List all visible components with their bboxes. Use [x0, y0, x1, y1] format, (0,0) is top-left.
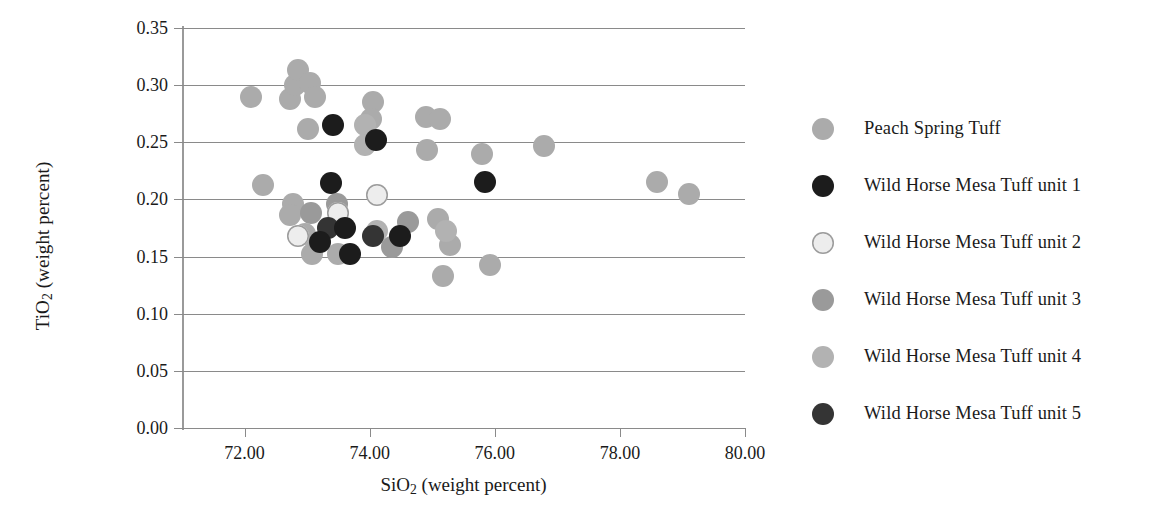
data-point	[646, 171, 668, 193]
data-point	[322, 114, 344, 136]
legend: Peach Spring TuffWild Horse Mesa Tuff un…	[812, 100, 1152, 442]
legend-label: Wild Horse Mesa Tuff unit 1	[864, 175, 1081, 196]
legend-marker-icon	[812, 403, 834, 425]
legend-label: Peach Spring Tuff	[864, 118, 1001, 139]
data-point	[334, 217, 356, 239]
x-axis-tick-label: 78.00	[600, 443, 641, 464]
gridline	[182, 142, 745, 143]
legend-label: Wild Horse Mesa Tuff unit 3	[864, 289, 1081, 310]
y-axis-tick	[174, 85, 183, 86]
gridline	[182, 28, 745, 29]
data-point	[339, 243, 361, 265]
data-point	[279, 204, 301, 226]
x-axis-tick	[620, 428, 621, 437]
legend-item[interactable]: Peach Spring Tuff	[812, 100, 1152, 157]
gridline	[182, 371, 745, 372]
data-point	[533, 135, 555, 157]
x-axis-tick-label: 76.00	[475, 443, 516, 464]
x-axis-title: SiO2 (weight percent)	[182, 474, 745, 498]
legend-marker-icon	[812, 175, 834, 197]
data-point	[435, 220, 457, 242]
data-point	[240, 86, 262, 108]
y-axis-tick	[174, 371, 183, 372]
legend-item[interactable]: Wild Horse Mesa Tuff unit 5	[812, 385, 1152, 442]
gridline	[182, 314, 745, 315]
data-point	[389, 225, 411, 247]
legend-item[interactable]: Wild Horse Mesa Tuff unit 1	[812, 157, 1152, 214]
legend-marker-icon	[812, 232, 834, 254]
plot-area: 0.000.050.100.150.200.250.300.35 72.0074…	[182, 28, 745, 428]
x-axis-tick-label: 74.00	[349, 443, 390, 464]
y-axis-tick-label: 0.20	[137, 189, 169, 210]
legend-label: Wild Horse Mesa Tuff unit 5	[864, 403, 1081, 424]
data-point	[320, 172, 342, 194]
y-axis-tick-label: 0.05	[137, 360, 169, 381]
scatter-plot-figure: TiO2 (weight percent) SiO2 (weight perce…	[0, 0, 1161, 520]
legend-item[interactable]: Wild Horse Mesa Tuff unit 4	[812, 328, 1152, 385]
data-point	[471, 143, 493, 165]
legend-marker-icon	[812, 289, 834, 311]
legend-label: Wild Horse Mesa Tuff unit 4	[864, 346, 1081, 367]
x-axis-tick	[245, 428, 246, 437]
data-point	[474, 171, 496, 193]
data-point	[416, 139, 438, 161]
data-point	[287, 225, 309, 247]
y-axis-tick-label: 0.30	[137, 75, 169, 96]
x-axis-tick	[370, 428, 371, 437]
data-point	[362, 225, 384, 247]
x-axis-tick	[745, 428, 746, 437]
y-axis-tick	[174, 142, 183, 143]
x-axis-tick-label: 80.00	[725, 443, 766, 464]
legend-marker-icon	[812, 118, 834, 140]
legend-item[interactable]: Wild Horse Mesa Tuff unit 3	[812, 271, 1152, 328]
y-axis-tick	[174, 28, 183, 29]
y-axis-tick	[174, 428, 183, 429]
y-axis-tick-label: 0.00	[137, 418, 169, 439]
data-point	[252, 174, 274, 196]
data-point	[309, 231, 331, 253]
y-axis-tick-label: 0.25	[137, 132, 169, 153]
gridline	[182, 85, 745, 86]
data-point	[479, 254, 501, 276]
data-point	[297, 118, 319, 140]
y-axis-title: TiO2 (weight percent)	[23, 46, 63, 446]
x-axis-tick-label: 72.00	[224, 443, 265, 464]
y-axis-tick	[174, 257, 183, 258]
x-axis-tick	[495, 428, 496, 437]
legend-marker-icon	[812, 346, 834, 368]
gridline	[182, 199, 745, 200]
data-point	[429, 108, 451, 130]
gridline	[182, 257, 745, 258]
y-axis-tick-label: 0.15	[137, 246, 169, 267]
y-axis-tick	[174, 314, 183, 315]
y-axis-tick-label: 0.10	[137, 303, 169, 324]
legend-label: Wild Horse Mesa Tuff unit 2	[864, 232, 1081, 253]
data-point	[304, 86, 326, 108]
y-axis-tick	[174, 199, 183, 200]
gridline	[182, 428, 745, 429]
data-point	[678, 183, 700, 205]
data-point	[365, 129, 387, 151]
data-point	[366, 184, 388, 206]
y-axis-tick-label: 0.35	[137, 18, 169, 39]
data-point	[432, 265, 454, 287]
legend-item[interactable]: Wild Horse Mesa Tuff unit 2	[812, 214, 1152, 271]
